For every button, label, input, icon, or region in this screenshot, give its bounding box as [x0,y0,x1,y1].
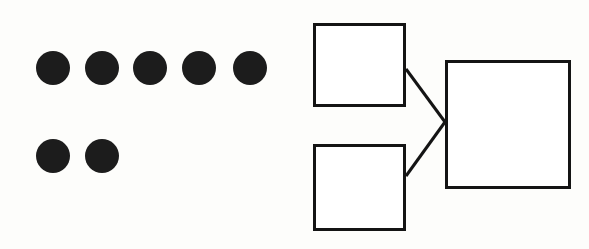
node-bottom-left [315,146,405,230]
dot-6 [36,139,70,173]
diagram-canvas [0,0,589,249]
dot-array [0,0,295,249]
box-connector-diagram [295,0,589,249]
dot-1 [36,51,70,85]
node-right [447,62,570,188]
dot-2 [85,51,119,85]
diagram-svg [295,0,589,249]
connector-layer [406,69,445,176]
dot-7 [85,139,119,173]
dot-5 [233,51,267,85]
dot-4 [182,51,216,85]
node-top-left [315,25,405,106]
connector-top [406,69,445,122]
dot-3 [133,51,167,85]
connector-bottom [406,122,445,176]
